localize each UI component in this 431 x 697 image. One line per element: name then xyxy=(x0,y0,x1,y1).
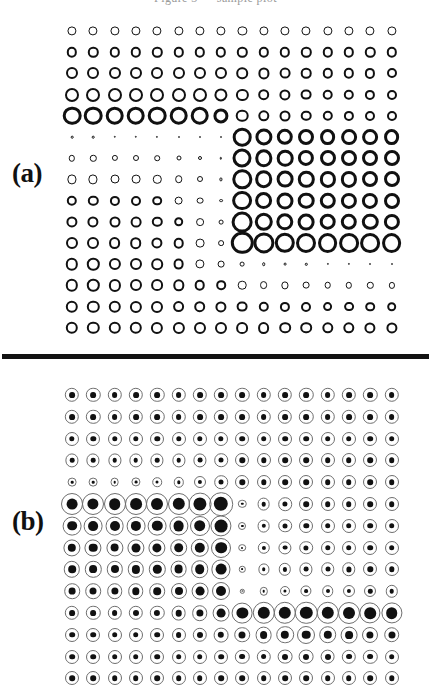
panel-b-inner-dot-r13-c15 xyxy=(367,654,373,660)
panel-b-inner-dot-r9-c1 xyxy=(68,566,76,574)
panel-b-inner-dot-r13-c16 xyxy=(389,654,395,660)
panel-b-inner-dot-r6-c15 xyxy=(367,501,373,507)
panel-a-ring-r13-c11 xyxy=(281,282,288,289)
panel-a-ring-r2-c3 xyxy=(109,47,119,57)
panel-b-inner-dot-r9-c12 xyxy=(304,567,309,572)
panel-a-ring-r13-c15 xyxy=(367,282,373,288)
panel-b-inner-dot-r14-c13 xyxy=(325,676,331,682)
panel-b-inner-dot-r11-c1 xyxy=(69,610,75,616)
panel-b-inner-dot-r5-c1 xyxy=(71,481,74,484)
panel-a-ring-r13-c3 xyxy=(109,279,121,291)
panel-b-inner-dot-r11-c2 xyxy=(90,610,96,616)
panel-a-ring-r4-c12 xyxy=(301,89,312,100)
panel-a-ring-r2-c10 xyxy=(258,47,268,57)
panel-a-ring-r5-c4 xyxy=(127,107,146,126)
panel-b-inner-dot-r13-c5 xyxy=(154,654,160,660)
panel-b-inner-dot-r8-c6 xyxy=(174,543,184,553)
panel-a-ring-r15-c7 xyxy=(194,322,206,334)
panel-a-ring-r10-c4 xyxy=(130,216,141,227)
panel-a-ring-r4-c4 xyxy=(129,88,143,102)
panel-b-inner-dot-r10-c7 xyxy=(195,587,204,596)
panel-a-ring-r2-c2 xyxy=(88,47,98,57)
panel-b-inner-dot-r13-c8 xyxy=(218,654,224,660)
panel-a-ring-r4-c13 xyxy=(322,89,333,100)
panel-b-inner-dot-r8-c8 xyxy=(215,542,227,554)
panel-a-ring-r2-c9 xyxy=(237,47,247,57)
panel-a-ring-r4-c10 xyxy=(258,89,270,101)
panel-a-ring-r8-c13 xyxy=(320,171,336,187)
panel-a-ring-r6-c11 xyxy=(277,129,293,145)
panel-b-inner-dot-r8-c9 xyxy=(241,547,243,549)
panel-b-inner-dot-r9-c3 xyxy=(111,565,119,573)
panel-b-inner-dot-r3-c9 xyxy=(240,436,246,442)
panel-b-inner-dot-r11-c4 xyxy=(133,610,139,616)
panel-b-inner-dot-r1-c15 xyxy=(367,392,373,398)
panel-b-inner-dot-r14-c4 xyxy=(133,676,139,682)
panel-a-ring-r11-c11 xyxy=(275,233,295,253)
panel-b-inner-dot-r3-c14 xyxy=(346,436,352,442)
panel-b-inner-dot-r2-c16 xyxy=(389,414,395,420)
panel-a-ring-r9-c2 xyxy=(88,195,98,205)
panel-a-ring-r14-c10 xyxy=(258,301,268,311)
panel-b-inner-dot-r6-c16 xyxy=(389,501,395,507)
panel-b-inner-dot-r2-c7 xyxy=(197,414,203,420)
panel-b-inner-dot-r4-c11 xyxy=(282,458,288,464)
panel-b-inner-dot-r2-c3 xyxy=(112,414,118,420)
panel-a-ring-r6-c14 xyxy=(341,129,357,145)
panel-b-inner-dot-r4-c1 xyxy=(70,458,75,463)
panel-b-inner-dot-r1-c14 xyxy=(346,392,352,398)
panel-b-inner-dot-r6-c5 xyxy=(151,498,163,510)
panel-a-ring-r1-c13 xyxy=(323,26,332,35)
panel-a-ring-r9-c12 xyxy=(298,192,315,209)
panel-a-ring-r7-c8 xyxy=(220,157,222,159)
panel-a-ring-r12-c10 xyxy=(262,262,266,266)
panel-a-ring-r12-c16 xyxy=(391,263,393,265)
panel-b-inner-dot-r14-c14 xyxy=(346,676,352,682)
panel-a-ring-r11-c8 xyxy=(218,240,224,246)
panel-a-ring-r5-c12 xyxy=(301,111,312,122)
panel-a-ring-r13-c8 xyxy=(216,281,226,291)
panel-a-ring-r7-c15 xyxy=(362,150,378,166)
panel-a-ring-r14-c4 xyxy=(130,301,142,313)
panel-a-ring-r11-c16 xyxy=(382,233,402,253)
panel-a-ring-r15-c14 xyxy=(343,322,354,333)
panel-b-inner-dot-r10-c13 xyxy=(326,589,330,593)
panel-a-ring-r11-c4 xyxy=(130,237,142,249)
panel-a-ring-r5-c5 xyxy=(148,107,167,126)
panel-a-ring-r7-c13 xyxy=(320,150,336,166)
panel-a-ring-r12-c5 xyxy=(151,258,163,270)
panel-a-ring-r13-c12 xyxy=(303,282,310,289)
panel-a-ring-r12-c15 xyxy=(369,263,371,265)
panel-b-inner-dot-r1-c10 xyxy=(261,392,267,398)
panel-a-ring-r11-c9 xyxy=(231,232,253,254)
panel-b-inner-dot-r3-c12 xyxy=(304,436,310,442)
panel-a-ring-r6-c7 xyxy=(199,136,201,138)
panel-a-ring-r9-c15 xyxy=(362,193,378,209)
panel-a-ring-r7-c7 xyxy=(198,156,202,160)
panel-a-ring-r8-c7 xyxy=(197,176,203,182)
panel-a-ring-r10-c11 xyxy=(276,213,293,230)
panel-a-ring-r3-c11 xyxy=(280,68,291,79)
panel-b-inner-dot-r12-c12 xyxy=(302,631,311,640)
panel-a-ring-r7-c10 xyxy=(255,149,272,166)
panel-a-ring-r3-c8 xyxy=(215,67,227,79)
panel-a-ring-r9-c10 xyxy=(255,192,273,210)
panel-b-inner-dot-r5-c16 xyxy=(389,479,395,485)
panel-b-inner-dot-r11-c15 xyxy=(364,607,376,619)
panel-b-inner-dot-r4-c16 xyxy=(389,458,395,464)
panel-a-ring-r1-c8 xyxy=(217,26,226,35)
panel-a-ring-r6-c8 xyxy=(220,136,222,138)
panel-a-ring-r14-c12 xyxy=(301,302,311,312)
panel-b-inner-dot-r4-c2 xyxy=(91,458,96,463)
panel-a-ring-r3-c12 xyxy=(301,68,312,79)
panel-b-inner-dot-r3-c10 xyxy=(261,436,267,442)
panel-b-inner-dot-r13-c13 xyxy=(325,654,331,660)
panel-a-ring-r5-c7 xyxy=(191,107,210,126)
panel-a-ring-r11-c7 xyxy=(195,239,204,248)
panel-a-ring-r8-c3 xyxy=(110,175,119,184)
panel-a-ring-r9-c9 xyxy=(232,191,252,211)
panel-a-ring-r13-c10 xyxy=(260,281,268,289)
panel-a-ring-r11-c15 xyxy=(360,233,380,253)
panel-a-ring-r6-c1 xyxy=(71,136,74,139)
panel-a-ring-r8-c15 xyxy=(362,171,378,187)
